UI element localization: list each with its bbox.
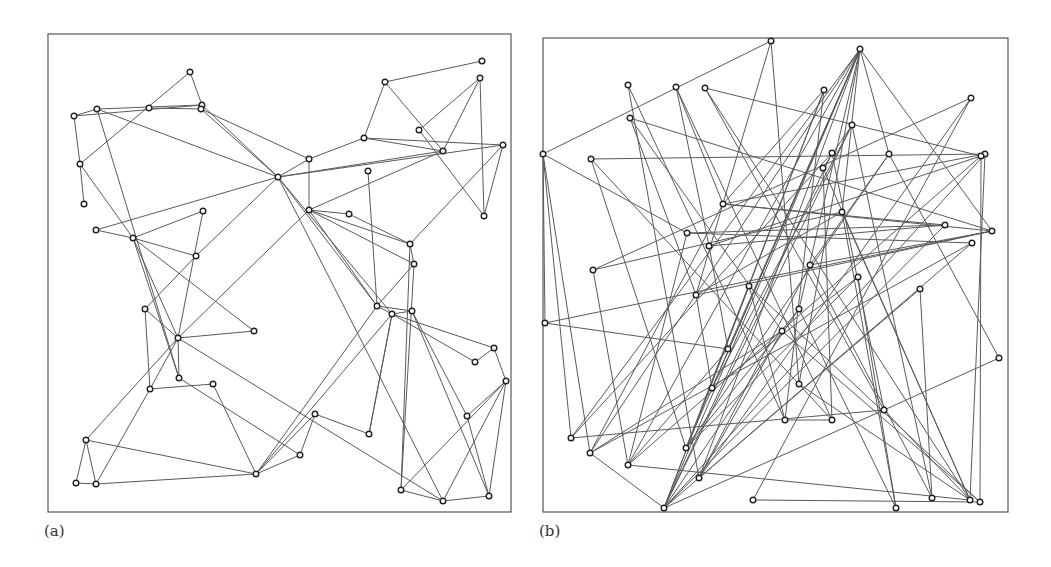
graph-node [365, 168, 371, 174]
edge [202, 105, 278, 177]
graph-node [366, 431, 372, 437]
edge [696, 295, 712, 388]
graph-node [251, 328, 257, 334]
graph-node [796, 381, 802, 387]
graph-node [625, 82, 631, 88]
graph-node [855, 274, 861, 280]
graph-node [472, 359, 478, 365]
edge [190, 72, 202, 105]
edge [86, 440, 96, 484]
graph-node [967, 497, 973, 503]
edge [145, 309, 178, 338]
graph-node [768, 38, 774, 44]
graph-node [210, 381, 216, 387]
edge [97, 109, 278, 177]
graph-node [73, 480, 79, 486]
edge [309, 151, 443, 210]
graph-node [71, 113, 77, 119]
edge [309, 210, 410, 244]
graph-node [479, 58, 485, 64]
graph-node [346, 211, 352, 217]
panel-a-random-graph [48, 34, 511, 512]
graph-node [969, 240, 975, 246]
edge [628, 156, 981, 465]
edge [443, 381, 506, 501]
graph-node [306, 156, 312, 162]
edge [385, 61, 482, 82]
graph-node [146, 105, 152, 111]
edge [412, 311, 489, 496]
graph-node [200, 208, 206, 214]
edge [443, 78, 480, 151]
edge [676, 87, 832, 420]
graph-node [709, 385, 715, 391]
graph-node [398, 487, 404, 493]
graph-node [779, 328, 785, 334]
graph-node [796, 306, 802, 312]
graph-node [94, 106, 100, 112]
graph-node [389, 311, 395, 317]
graph-node [702, 85, 708, 91]
edge [494, 348, 506, 381]
graph-node [625, 462, 631, 468]
edge [723, 154, 985, 204]
edge [76, 440, 86, 483]
graph-node [989, 228, 995, 234]
graph-node [253, 471, 259, 477]
edge [545, 323, 728, 349]
graph-node [849, 122, 855, 128]
edge [571, 153, 832, 438]
graph-node [996, 355, 1002, 361]
edge [369, 314, 392, 434]
graph-node [917, 286, 923, 292]
graph-node [886, 151, 892, 157]
graph-node [83, 437, 89, 443]
edge [278, 177, 392, 314]
edge [309, 138, 364, 159]
edge [97, 109, 179, 378]
edge [178, 211, 203, 338]
graph-node [587, 450, 593, 456]
graph-node [821, 87, 827, 93]
edge [80, 72, 190, 164]
edge [133, 238, 178, 338]
graph-node [193, 253, 199, 259]
graph-node [409, 308, 415, 314]
edge [630, 118, 992, 231]
panel-frame [48, 34, 511, 512]
graph-node [893, 505, 899, 511]
nodes [540, 38, 1002, 511]
edge [309, 210, 414, 264]
edge [545, 231, 992, 323]
graph-node [696, 475, 702, 481]
graph-node [839, 209, 845, 215]
graph-node [881, 407, 887, 413]
edge [712, 125, 852, 388]
graph-node [500, 142, 506, 148]
edge [178, 210, 309, 338]
edge [810, 231, 992, 265]
graph-node [725, 346, 731, 352]
edge [630, 118, 696, 295]
edge [133, 238, 196, 256]
graph-node [481, 213, 487, 219]
edge [753, 500, 980, 502]
graph-node [93, 481, 99, 487]
graph-node [361, 135, 367, 141]
graph-node [661, 505, 667, 511]
graph-node [486, 493, 492, 499]
edge [858, 277, 896, 508]
edge [401, 264, 414, 490]
network-diagram [0, 0, 1051, 567]
panel-b-random-graph [540, 38, 1008, 512]
edge [368, 171, 377, 306]
graph-node [746, 283, 752, 289]
edge [201, 109, 278, 177]
graph-node [588, 156, 594, 162]
edge [145, 309, 150, 389]
edges [74, 61, 506, 501]
graph-node [750, 497, 756, 503]
edge [364, 82, 385, 138]
edge [133, 238, 179, 378]
edge [705, 88, 884, 410]
